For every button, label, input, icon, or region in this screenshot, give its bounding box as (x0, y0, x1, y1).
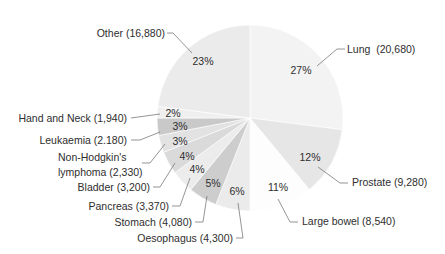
pct-leukaemia: 3% (172, 120, 187, 132)
label-pancreas: Pancreas (3,370) (88, 200, 169, 212)
label-hand-and-neck: Hand and Neck (1,940) (18, 112, 127, 124)
leader-line-stomach (195, 196, 207, 222)
pie-slice-lung (250, 25, 343, 130)
leader-line-leukaemia (131, 132, 160, 140)
pct-bladder: 4% (179, 150, 194, 162)
leader-line-hand-and-neck (131, 114, 160, 118)
pct-stomach: 5% (205, 177, 220, 189)
label-lung: Lung (20,680) (347, 43, 415, 55)
pct-oesophagus: 6% (229, 185, 244, 197)
pct-large-bowel: 11% (268, 181, 288, 193)
label-prostate: Prostate (9,280) (352, 176, 427, 188)
pct-other: 23% (192, 55, 213, 67)
pct-hand-and-neck: 2% (165, 107, 180, 119)
pct-lung: 27% (290, 64, 311, 76)
label-nhl-line1: Non-Hodgkin's (58, 151, 127, 163)
pct-pancreas: 4% (189, 163, 204, 175)
label-large-bowel: Large bowel (8,540) (302, 215, 395, 227)
pct-nhl: 3% (172, 135, 187, 147)
label-bladder: Bladder (3,200) (78, 181, 150, 193)
pie-slice-other (158, 25, 250, 118)
label-oesophagus: Oesophagus (4,300) (137, 232, 233, 244)
label-leukaemia: Leukaemia (2.180) (39, 134, 127, 146)
label-stomach: Stomach (4,080) (114, 216, 192, 228)
pie-chart: 27% 12% 11% 6% 5% 4% 4% 3% 3% 2% 23% Lun… (0, 0, 445, 254)
label-nhl-line2: lymphoma (2,330) (58, 166, 143, 178)
label-other: Other (16,880) (97, 27, 165, 39)
pie-slices (157, 25, 343, 211)
pct-prostate: 12% (299, 151, 320, 163)
